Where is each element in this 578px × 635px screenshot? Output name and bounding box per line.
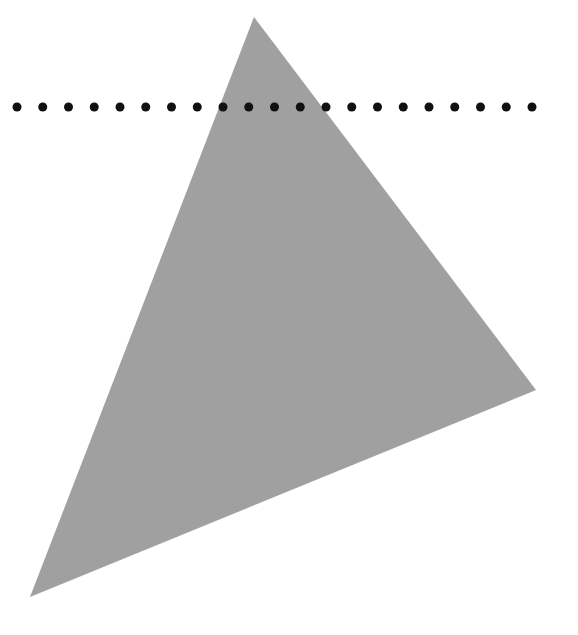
dot — [399, 103, 408, 112]
dot — [270, 103, 279, 112]
dotted-line — [13, 103, 537, 112]
dot — [296, 103, 305, 112]
dot — [450, 103, 459, 112]
dot — [219, 103, 228, 112]
gray-triangle — [30, 17, 536, 597]
dot — [141, 103, 150, 112]
dot — [502, 103, 511, 112]
dot — [116, 103, 125, 112]
dot — [322, 103, 331, 112]
dot — [64, 103, 73, 112]
dot — [90, 103, 99, 112]
dot — [193, 103, 202, 112]
dot — [476, 103, 485, 112]
dot — [38, 103, 47, 112]
dot — [13, 103, 22, 112]
dot — [425, 103, 434, 112]
dot — [244, 103, 253, 112]
dot — [528, 103, 537, 112]
dot — [167, 103, 176, 112]
diagram-svg — [0, 0, 578, 635]
dot — [347, 103, 356, 112]
dot — [373, 103, 382, 112]
diagram-canvas — [0, 0, 578, 635]
